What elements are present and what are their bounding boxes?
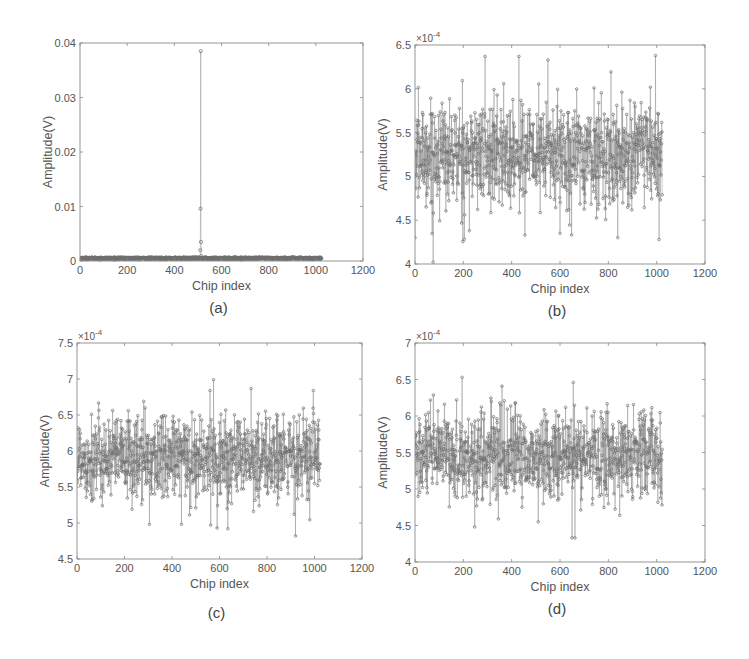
x-tick-label: 600 xyxy=(210,562,228,574)
y-tick-label: 5.5 xyxy=(58,481,73,493)
y-axis-title: Amplitude(V) xyxy=(41,116,55,188)
panel-caption: (b) xyxy=(548,302,566,319)
y-tick-label: 5 xyxy=(405,483,411,495)
x-tick-label: 800 xyxy=(599,267,617,279)
x-tick-label: 800 xyxy=(258,562,276,574)
x-tick-label: 1200 xyxy=(350,562,374,574)
y-tick-label: 7.5 xyxy=(58,337,73,349)
x-tick-label: 200 xyxy=(115,562,133,574)
chart-panel-a: 02004006008001000120000.010.020.030.04Ch… xyxy=(41,37,375,316)
x-tick-label: 400 xyxy=(502,267,520,279)
x-tick-label: 0 xyxy=(412,565,418,577)
y-tick-label: 4.5 xyxy=(396,520,411,532)
x-tick-label: 1200 xyxy=(351,264,375,276)
y-tick-label: 0.04 xyxy=(55,37,76,49)
data-series xyxy=(414,54,664,263)
y-tick-label: 6 xyxy=(67,445,73,457)
x-tick-label: 0 xyxy=(74,562,80,574)
x-tick-label: 1200 xyxy=(693,267,717,279)
x-tick-label: 400 xyxy=(165,264,183,276)
data-series xyxy=(78,50,322,262)
x-tick-label: 600 xyxy=(551,565,569,577)
y-tick-label: 0.02 xyxy=(55,146,76,158)
x-tick-label: 1000 xyxy=(302,562,326,574)
x-tick-label: 800 xyxy=(599,565,617,577)
x-tick-label: 200 xyxy=(454,267,472,279)
y-tick-label: 4 xyxy=(405,556,411,568)
y-tick-label: 5.5 xyxy=(396,447,411,459)
x-tick-label: 0 xyxy=(412,267,418,279)
y-tick-label: 4.5 xyxy=(396,214,411,226)
x-tick-label: 400 xyxy=(163,562,181,574)
y-tick-label: 6 xyxy=(405,410,411,422)
y-tick-label: 5 xyxy=(405,170,411,182)
y-tick-label: 6.5 xyxy=(396,39,411,51)
y-tick-label: 7 xyxy=(67,373,73,385)
x-tick-label: 400 xyxy=(502,565,520,577)
chart-panel-c: 0200400600800100012004.555.566.577.5×10-… xyxy=(38,328,374,621)
x-axis-title: Chip index xyxy=(530,580,590,594)
x-tick-label: 1000 xyxy=(304,264,328,276)
y-tick-label: 0.03 xyxy=(55,92,76,104)
y-tick-label: 7 xyxy=(405,337,411,349)
x-tick-label: 600 xyxy=(551,267,569,279)
axes-box xyxy=(80,43,363,261)
y-exponent-label: ×10-4 xyxy=(416,30,441,44)
x-tick-label: 1200 xyxy=(693,565,717,577)
y-axis-title: Amplitude(V) xyxy=(376,118,390,190)
data-series xyxy=(414,376,664,539)
y-tick-label: 4.5 xyxy=(58,553,73,565)
panel-caption: (a) xyxy=(209,299,227,316)
panel-caption: (c) xyxy=(208,604,226,621)
chart-panel-b: 02004006008001000120044.555.566.5×10-4Ch… xyxy=(376,30,717,319)
x-tick-label: 200 xyxy=(118,264,136,276)
figure-canvas: 02004006008001000120000.010.020.030.04Ch… xyxy=(0,0,749,659)
y-exponent-label: ×10-4 xyxy=(416,328,441,342)
y-tick-label: 0.01 xyxy=(55,201,76,213)
y-tick-label: 0 xyxy=(70,255,76,267)
y-tick-label: 5 xyxy=(67,517,73,529)
y-tick-label: 4 xyxy=(405,258,411,270)
x-tick-label: 1000 xyxy=(644,267,668,279)
y-tick-label: 6 xyxy=(405,83,411,95)
x-tick-label: 600 xyxy=(212,264,230,276)
y-axis-title: Amplitude(V) xyxy=(38,415,52,487)
y-exponent-label: ×10-4 xyxy=(78,328,103,342)
y-tick-label: 5.5 xyxy=(396,127,411,139)
x-tick-label: 800 xyxy=(259,264,277,276)
data-series xyxy=(76,378,322,537)
x-axis-title: Chip index xyxy=(190,577,250,591)
chart-panel-d: 02004006008001000120044.555.566.57×10-4C… xyxy=(376,328,717,617)
x-axis-title: Chip index xyxy=(192,279,252,293)
y-axis-title: Amplitude(V) xyxy=(376,416,390,488)
x-axis-title: Chip index xyxy=(530,282,590,296)
y-tick-label: 6.5 xyxy=(396,374,411,386)
x-tick-label: 1000 xyxy=(644,565,668,577)
x-tick-label: 0 xyxy=(77,264,83,276)
y-tick-label: 6.5 xyxy=(58,409,73,421)
x-tick-label: 200 xyxy=(454,565,472,577)
panel-caption: (d) xyxy=(548,600,566,617)
